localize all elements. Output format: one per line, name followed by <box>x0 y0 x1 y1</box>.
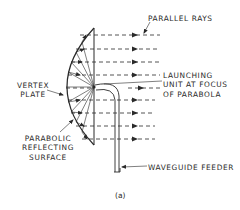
parabolic-surface-label-line2: REFLECTING <box>20 143 76 152</box>
launching-unit-label-line1: LAUNCHING <box>163 71 227 80</box>
diagram-drawing <box>0 0 240 210</box>
waveguide-feeder <box>95 84 120 172</box>
parallel-rays-label: PARALLEL RAYS <box>148 14 213 23</box>
vertex-plate-label-line1: VERTEX <box>14 81 52 90</box>
launching-unit-label-line2: UNIT AT FOCUS <box>163 80 227 89</box>
launching-unit-label: LAUNCHING UNIT AT FOCUS OF PARABOLA <box>163 71 227 99</box>
vertex-plate-label-line2: PLATE <box>14 90 52 99</box>
launching-unit-label-line3: OF PARABOLA <box>163 90 227 99</box>
focus-to-reflector-rays <box>66 42 94 132</box>
focus-point <box>92 85 95 88</box>
waveguide-feeder-label: WAVEGUIDE FEEDER <box>148 163 234 172</box>
vertex-plate-label: VERTEX PLATE <box>14 81 52 100</box>
parabolic-surface-label-line1: PARABOLIC <box>20 134 76 143</box>
parabolic-antenna-diagram: PARALLEL RAYS VERTEX PLATE LAUNCHING UNI… <box>0 0 240 210</box>
parabolic-surface <box>67 28 94 145</box>
parabolic-surface-label-line3: SURFACE <box>20 153 76 162</box>
figure-caption: (a) <box>115 191 125 200</box>
parabolic-surface-label: PARABOLIC REFLECTING SURFACE <box>20 134 76 162</box>
